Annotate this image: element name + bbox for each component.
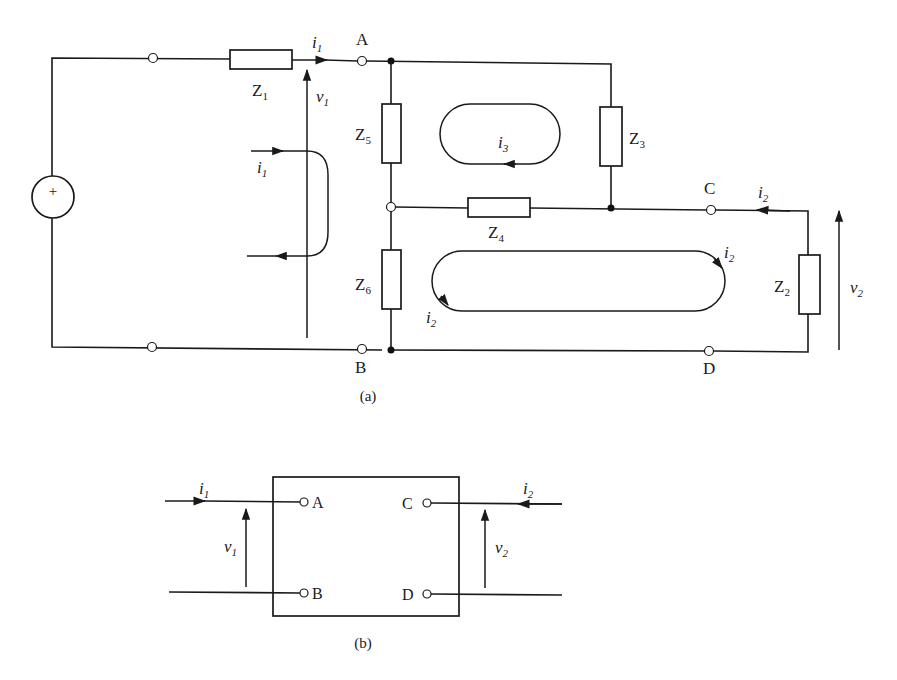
terminal-a-b [300,498,308,506]
mesh-current-i1-loop: i1 [247,151,328,256]
terminal-c-b [423,499,431,507]
mesh-current-i3-loop: i3 [440,104,560,164]
terminal-a [358,57,367,66]
junction-right [608,205,615,212]
label-terminal-a: A [312,494,324,511]
label-z4: Z4 [488,223,504,244]
label-z6: Z6 [355,275,371,296]
label-v2: v2 [850,278,864,299]
wire-port-a [203,501,300,502]
wire-z1-to-a [325,60,358,61]
current-arrow-i2-top [757,210,790,211]
figure-b-two-port-box: A i1 B v1 C i2 D v2 (b) [165,477,562,652]
label-i2-b: i2 [523,479,534,500]
wire-right-top [715,210,808,255]
label-z3: Z3 [629,129,645,150]
terminal-input-bottom [148,343,157,352]
wire-mid-z4 [395,207,468,208]
wire-bottom-right [391,350,705,351]
label-v1-b: v1 [224,537,237,558]
wire-left-top [52,58,230,176]
junction-bottom [388,347,395,354]
label-i2-loop-left: i2 [426,308,437,329]
wire-port-b [169,592,300,593]
figure-a-circuit: + Z1 i1 A Z5 Z4 Z3 [32,30,864,405]
voltage-source: + [32,176,74,218]
terminal-b [358,345,367,354]
caption-a: (a) [360,388,377,405]
terminal-d-b [423,590,431,598]
impedance-z4 [468,198,530,217]
label-terminal-d: D [402,586,414,603]
label-z2: Z2 [774,277,790,298]
impedance-z5 [382,104,401,163]
label-z1: Z1 [252,81,268,102]
loop-i2-arrow-right [714,258,722,268]
label-i1-top: i1 [312,33,322,54]
label-i2-top: i2 [758,183,769,204]
source-plus-sign: + [49,183,57,199]
label-v1: v1 [316,87,329,108]
wire-z4-to-c [530,208,707,210]
mesh-current-i2-loop: i2 i2 [426,243,735,329]
label-i2-loop-right: i2 [724,243,735,264]
caption-b: (b) [354,635,372,652]
label-node-b: B [355,358,366,377]
wire-right-bottom [713,314,808,352]
label-terminal-b: B [312,585,323,602]
label-terminal-c: C [402,495,413,512]
label-z5: Z5 [355,125,371,146]
impedance-z1 [230,50,292,69]
impedance-z2 [799,255,820,314]
terminal-b-b [300,589,308,597]
loop-i2-path [432,251,725,311]
label-v2-b: v2 [495,538,509,559]
wire-port-d [431,594,562,595]
two-port-network-figure: + Z1 i1 A Z5 Z4 Z3 [0,0,897,680]
label-node-d: D [703,359,715,378]
impedance-z3 [600,107,622,166]
loop-i1-path [280,151,328,256]
terminal-middle [387,203,396,212]
impedance-z6 [382,250,401,309]
wire-top-right [366,61,611,107]
label-node-c: C [704,179,715,198]
label-i3: i3 [498,133,509,154]
terminal-c [707,206,716,215]
label-i1-loop: i1 [257,158,267,179]
wire-left-bottom [52,218,382,350]
label-node-a: A [356,30,369,49]
terminal-input-top [149,54,158,63]
label-i1-b: i1 [199,479,209,500]
terminal-d [705,347,714,356]
